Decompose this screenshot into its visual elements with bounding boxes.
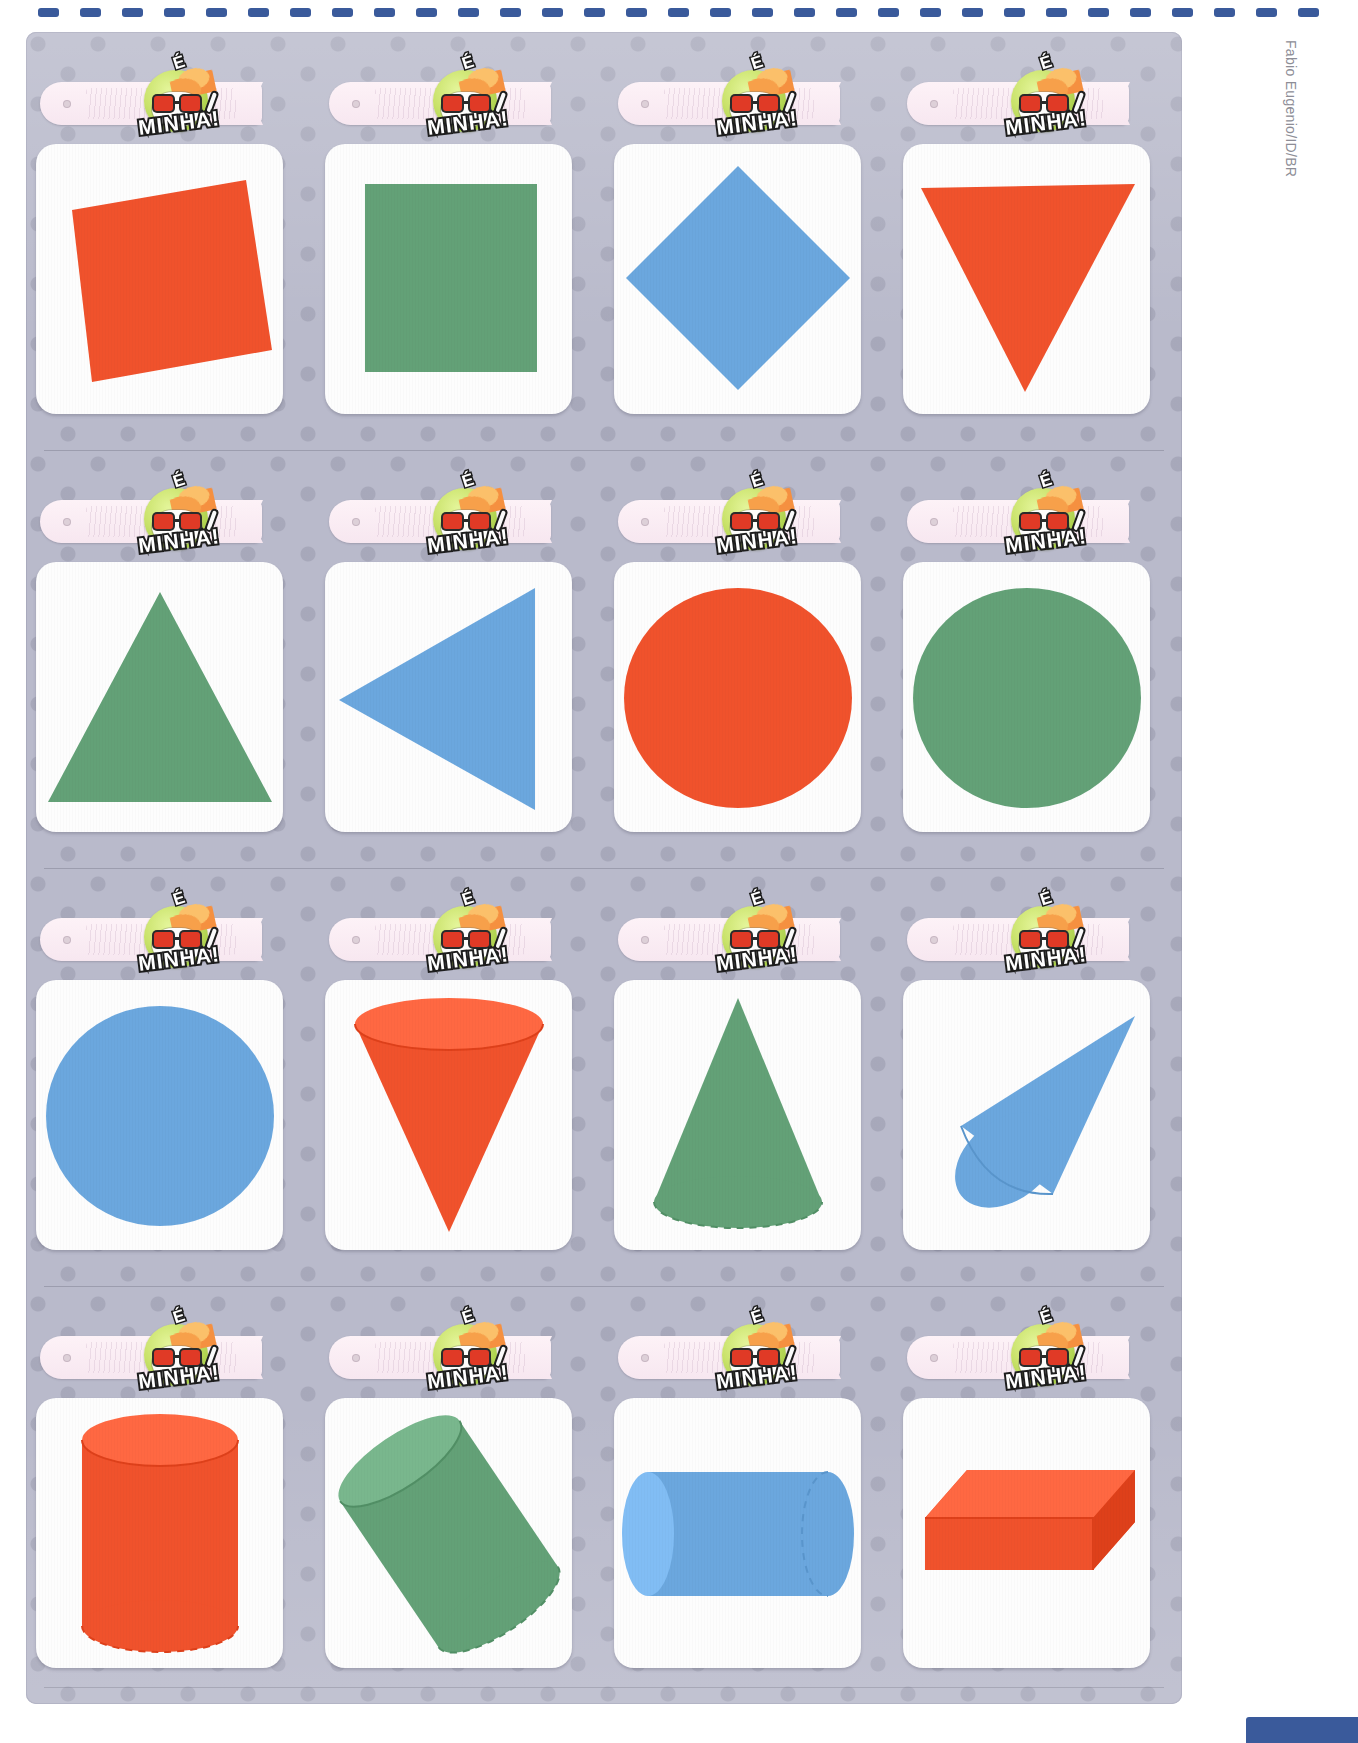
e-minha-badge: ÉMINHA! — [708, 884, 800, 976]
shape-figure-card[interactable] — [903, 980, 1150, 1250]
e-minha-badge: ÉMINHA! — [130, 1302, 222, 1394]
binding-dash — [1088, 8, 1109, 17]
shape-figure-card[interactable] — [903, 1398, 1150, 1668]
shape-card-cell: ÉMINHA! — [26, 32, 315, 450]
shape-figure-card[interactable] — [614, 980, 861, 1250]
tag-hole-icon — [64, 1355, 70, 1361]
binding-dash — [878, 8, 899, 17]
binding-dash — [1172, 8, 1193, 17]
binding-dash — [500, 8, 521, 17]
tag-hole-icon — [64, 519, 70, 525]
shape-card-cell: ÉMINHA! — [604, 450, 893, 868]
shape-cards-grid: ÉMINHA!ÉMINHA!ÉMINHA!ÉMINHA!ÉMINHA!ÉMINH… — [26, 32, 1182, 1704]
e-minha-badge: ÉMINHA! — [419, 1302, 511, 1394]
binding-dash — [710, 8, 731, 17]
binding-dash — [290, 8, 311, 17]
shape-card-cell: ÉMINHA! — [893, 868, 1182, 1286]
shape-figure-card[interactable] — [903, 144, 1150, 414]
tag-hole-icon — [353, 519, 359, 525]
shape-figure-card[interactable] — [614, 144, 861, 414]
binding-dash — [920, 8, 941, 17]
shape-figure-card[interactable] — [325, 980, 572, 1250]
e-minha-badge: ÉMINHA! — [130, 884, 222, 976]
shape-card-cell: ÉMINHA! — [893, 1286, 1182, 1704]
shape-figure-card[interactable] — [325, 144, 572, 414]
e-minha-badge: ÉMINHA! — [419, 466, 511, 558]
e-minha-badge: ÉMINHA! — [997, 884, 1089, 976]
shape-figure-card[interactable] — [614, 562, 861, 832]
binding-dash — [1004, 8, 1025, 17]
shape-figure-card[interactable] — [36, 1398, 283, 1668]
e-minha-badge: ÉMINHA! — [997, 1302, 1089, 1394]
binding-dash — [248, 8, 269, 17]
tag-hole-icon — [353, 937, 359, 943]
tag-hole-icon — [642, 1355, 648, 1361]
binding-dash — [1256, 8, 1277, 17]
e-minha-badge: ÉMINHA! — [997, 466, 1089, 558]
shape-card-cell: ÉMINHA! — [315, 32, 604, 450]
shape-card-cell: ÉMINHA! — [26, 1286, 315, 1704]
e-minha-badge: ÉMINHA! — [708, 1302, 800, 1394]
binding-dash — [80, 8, 101, 17]
shape-card-cell: ÉMINHA! — [315, 1286, 604, 1704]
binding-dash — [458, 8, 479, 17]
tag-hole-icon — [353, 1355, 359, 1361]
binding-dash — [752, 8, 773, 17]
binding-dash — [1130, 8, 1151, 17]
shape-figure-card[interactable] — [614, 1398, 861, 1668]
shape-card-cell: ÉMINHA! — [26, 450, 315, 868]
binding-dash — [122, 8, 143, 17]
binding-dash — [38, 8, 59, 17]
shape-card-cell: ÉMINHA! — [315, 450, 604, 868]
binding-dash — [836, 8, 857, 17]
binding-dash — [332, 8, 353, 17]
binding-dash — [206, 8, 227, 17]
shape-figure-card[interactable] — [36, 980, 283, 1250]
e-minha-badge: ÉMINHA! — [708, 48, 800, 140]
shape-figure-card[interactable] — [325, 562, 572, 832]
e-minha-badge: ÉMINHA! — [130, 466, 222, 558]
tag-hole-icon — [64, 101, 70, 107]
binding-dash — [1298, 8, 1319, 17]
shape-card-cell: ÉMINHA! — [893, 32, 1182, 450]
binding-dash — [542, 8, 563, 17]
tag-hole-icon — [931, 519, 937, 525]
shape-card-cell: ÉMINHA! — [315, 868, 604, 1286]
binding-dash — [374, 8, 395, 17]
shape-figure-card[interactable] — [903, 562, 1150, 832]
worksheet-sheet: ÉMINHA!ÉMINHA!ÉMINHA!ÉMINHA!ÉMINHA!ÉMINH… — [26, 32, 1182, 1704]
e-minha-badge: ÉMINHA! — [997, 48, 1089, 140]
shape-figure-card[interactable] — [325, 1398, 572, 1668]
binding-dash — [1214, 8, 1235, 17]
e-minha-badge: ÉMINHA! — [130, 48, 222, 140]
page-corner-tab — [1246, 1717, 1358, 1743]
image-credit: Fabio Eugenio/ID/BR — [1283, 40, 1299, 190]
tag-hole-icon — [931, 1355, 937, 1361]
spiral-binding-dashes — [0, 6, 1358, 20]
binding-dash — [668, 8, 689, 17]
tag-hole-icon — [931, 937, 937, 943]
tag-hole-icon — [931, 101, 937, 107]
binding-dash — [1046, 8, 1067, 17]
e-minha-badge: ÉMINHA! — [419, 48, 511, 140]
shape-card-cell: ÉMINHA! — [26, 868, 315, 1286]
e-minha-badge: ÉMINHA! — [708, 466, 800, 558]
tag-hole-icon — [64, 937, 70, 943]
shape-card-cell: ÉMINHA! — [893, 450, 1182, 868]
binding-dash — [164, 8, 185, 17]
binding-dash — [416, 8, 437, 17]
tag-hole-icon — [642, 101, 648, 107]
binding-dash — [962, 8, 983, 17]
binding-dash — [626, 8, 647, 17]
shape-card-cell: ÉMINHA! — [604, 868, 893, 1286]
e-minha-badge: ÉMINHA! — [419, 884, 511, 976]
binding-dash — [794, 8, 815, 17]
tag-hole-icon — [642, 937, 648, 943]
shape-card-cell: ÉMINHA! — [604, 32, 893, 450]
tag-hole-icon — [353, 101, 359, 107]
shape-figure-card[interactable] — [36, 562, 283, 832]
binding-dash — [584, 8, 605, 17]
tag-hole-icon — [642, 519, 648, 525]
shape-card-cell: ÉMINHA! — [604, 1286, 893, 1704]
shape-figure-card[interactable] — [36, 144, 283, 414]
